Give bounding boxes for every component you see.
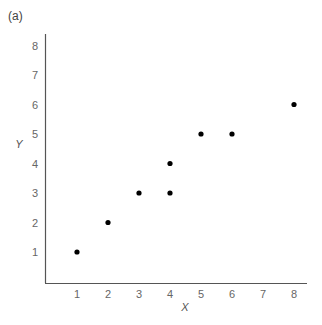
- data-point: [229, 131, 234, 136]
- y-tick-label: 8: [32, 40, 38, 52]
- y-tick-label: 1: [32, 246, 38, 258]
- data-points: [74, 102, 296, 255]
- x-axis-title: X: [180, 301, 189, 313]
- y-tick-label: 6: [32, 99, 38, 111]
- data-point: [198, 131, 203, 136]
- y-tick-label: 3: [32, 187, 38, 199]
- y-tick-label: 4: [32, 158, 38, 170]
- y-tick-label: 2: [32, 217, 38, 229]
- x-tick-label: 6: [229, 288, 235, 300]
- x-tick-labels: 12345678: [74, 288, 297, 300]
- data-point: [105, 220, 110, 225]
- x-tick-label: 1: [74, 288, 80, 300]
- data-point: [167, 190, 172, 195]
- data-point: [167, 161, 172, 166]
- x-tick-label: 7: [260, 288, 266, 300]
- data-point: [74, 249, 79, 254]
- y-axis-title: Y: [15, 138, 23, 150]
- y-tick-label: 5: [32, 128, 38, 140]
- x-tick-label: 3: [136, 288, 142, 300]
- y-tick-labels: 12345678: [32, 40, 38, 259]
- y-tick-label: 7: [32, 69, 38, 81]
- data-point: [291, 102, 296, 107]
- x-tick-label: 8: [291, 288, 297, 300]
- x-tick-label: 4: [167, 288, 173, 300]
- scatter-plot: 12345678 12345678 X Y: [0, 0, 322, 325]
- x-tick-label: 2: [105, 288, 111, 300]
- data-point: [136, 190, 141, 195]
- x-tick-label: 5: [198, 288, 204, 300]
